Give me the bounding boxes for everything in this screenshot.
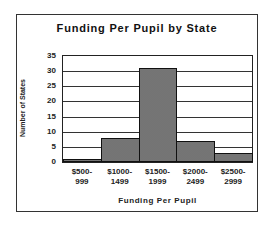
x-axis-label: Funding Per Pupil [62,196,253,205]
y-tick-label: 15 [34,112,56,121]
bar [101,138,140,162]
x-tick-label: $1500-1999 [139,167,177,187]
bar [214,153,253,162]
y-tick-label: 20 [34,96,56,105]
y-tick-label: 0 [34,157,56,166]
y-axis-label: Number of States [19,79,26,137]
y-tick-label: 25 [34,81,56,90]
x-tick-label: $2500-2999 [214,167,252,187]
bar [139,68,178,162]
x-tick-label: $2000-2499 [176,167,214,187]
bar [176,141,215,162]
y-tick-label: 5 [34,142,56,151]
bar [63,159,102,162]
x-tick-label: $1000-1499 [101,167,139,187]
y-tick-label: 35 [34,51,56,60]
chart-title: Funding Per Pupil by State [16,22,258,34]
y-tick-label: 30 [34,66,56,75]
y-tick-label: 10 [34,127,56,136]
plot-area [62,55,253,163]
x-tick-label: $500-999 [63,167,101,187]
